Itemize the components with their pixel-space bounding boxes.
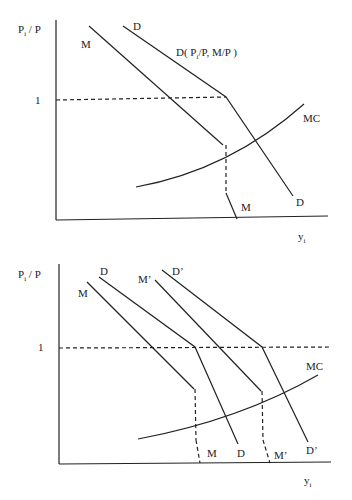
- bottom-x-axis-label: yi: [304, 474, 312, 489]
- bottom-money-shifted-vertical: [262, 391, 263, 440]
- top-price-level-line: [56, 97, 226, 100]
- bottom-money-label-top: M: [78, 287, 88, 299]
- bottom-money-shifted-curve: [155, 280, 261, 391]
- bottom-demand-label-top: D: [100, 265, 108, 277]
- bottom-money-curve: [87, 282, 194, 389]
- top-mc-label: MC: [303, 112, 320, 124]
- diagram-canvas: Pi / P yi 1 D D D( Pi/P, M/P ) M M MC Pi…: [0, 0, 352, 500]
- bottom-demand-label-bottom: D: [237, 447, 245, 459]
- bottom-money-curve-vertical: [195, 389, 196, 440]
- top-y-axis-label: Pi / P: [18, 23, 41, 38]
- bottom-demand-shifted-curve: [162, 270, 308, 442]
- top-money-label-top: M: [81, 38, 91, 50]
- top-demand-label-top: D: [133, 20, 141, 32]
- bottom-price-tick-label: 1: [38, 341, 44, 353]
- bottom-money-shifted-label-top: M’: [138, 273, 151, 285]
- top-demand-label-bottom: D: [296, 196, 304, 208]
- bottom-money-shifted-label-bottom: M’: [274, 449, 287, 461]
- bottom-diagram: Pi / P yi 1 D D D’ D’ M M M’ M’ MC: [18, 264, 332, 489]
- bottom-mc-label: MC: [306, 360, 323, 372]
- bottom-demand-shifted-label-top: D’: [172, 265, 184, 277]
- bottom-money-shifted-tail: [263, 440, 270, 463]
- top-diagram: Pi / P yi 1 D D D( Pi/P, M/P ) M M MC: [18, 20, 328, 245]
- top-demand-function-label: D( Pi/P, M/P ): [176, 46, 237, 61]
- top-x-axis-label: yi: [298, 230, 306, 245]
- top-money-curve: [89, 26, 223, 145]
- bottom-y-axis-label: Pi / P: [18, 268, 41, 283]
- bottom-money-label-bottom: M: [207, 447, 217, 459]
- bottom-money-curve-tail: [196, 440, 200, 463]
- top-money-curve-tail: [226, 193, 237, 219]
- bottom-x-axis: [59, 462, 331, 464]
- top-money-label-bottom: M: [241, 201, 251, 213]
- top-x-axis: [56, 216, 328, 220]
- top-price-tick-label: 1: [35, 94, 41, 106]
- bottom-demand-shifted-label-bottom: D’: [306, 444, 318, 456]
